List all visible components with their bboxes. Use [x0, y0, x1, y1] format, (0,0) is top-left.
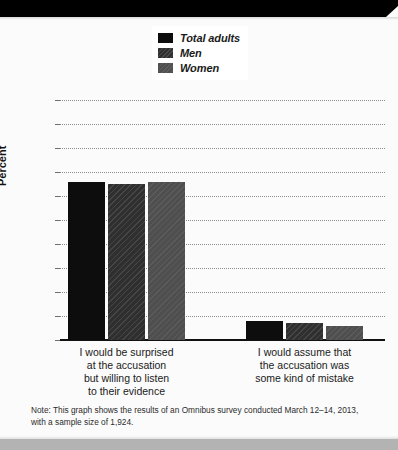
legend-label-women: Women [180, 62, 219, 74]
x-axis-category-label-1: I would be surprisedat the accusationbut… [47, 346, 207, 398]
gridline-80 [60, 148, 385, 150]
bar-total-adults-group-2 [246, 321, 283, 340]
gridline-100 [60, 100, 385, 102]
plot-area: 1009080706050403020100 [60, 100, 385, 340]
x-axis-category-label-1-line-4: to their evidence [47, 385, 207, 398]
legend-swatch-women [158, 63, 173, 73]
y-tick-mark-30 [55, 268, 60, 269]
y-tick-mark-60 [55, 196, 60, 197]
chart-footnote: Note: This graph shows the results of an… [31, 404, 371, 428]
y-tick-mark-10 [55, 316, 60, 317]
chart-figure: Total adults Men Women Percent 100908070… [0, 0, 398, 450]
y-tick-mark-70 [55, 172, 60, 173]
chart-legend: Total adults Men Women [152, 26, 248, 80]
legend-item-total-adults: Total adults [158, 30, 240, 45]
bar-women-group-2 [326, 326, 363, 340]
y-tick-mark-100 [55, 100, 60, 101]
x-axis-category-label-1-line-1: I would be surprised [47, 346, 207, 359]
x-axis-category-label-2: I would assume thatthe accusation wassom… [225, 346, 385, 385]
y-tick-mark-90 [55, 124, 60, 125]
y-tick-mark-80 [55, 148, 60, 149]
gridline-90 [60, 124, 385, 126]
legend-label-total-adults: Total adults [180, 32, 240, 44]
legend-item-men: Men [158, 45, 240, 60]
x-axis-category-label-2-line-3: some kind of mistake [225, 372, 385, 385]
y-axis-title: Percent [0, 146, 8, 186]
x-axis-category-label-1-line-3: but willing to listen [47, 372, 207, 385]
top-banner-shadow [0, 17, 398, 20]
bar-men-group-2 [286, 323, 323, 340]
gridline-70 [60, 172, 385, 174]
legend-label-men: Men [180, 47, 202, 59]
x-axis-category-label-2-line-1: I would assume that [225, 346, 385, 359]
y-tick-mark-50 [55, 220, 60, 221]
legend-item-women: Women [158, 60, 240, 75]
y-tick-mark-40 [55, 244, 60, 245]
x-axis-category-label-1-line-2: at the accusation [47, 359, 207, 372]
y-tick-mark-0 [55, 340, 60, 341]
x-axis-category-label-2-line-2: the accusation was [225, 359, 385, 372]
bar-total-adults-group-1 [68, 182, 105, 340]
bar-men-group-1 [108, 184, 145, 340]
bottom-bar-decoration [0, 439, 398, 450]
legend-swatch-men [158, 48, 173, 58]
legend-swatch-total-adults [158, 33, 173, 43]
y-tick-mark-20 [55, 292, 60, 293]
bar-women-group-1 [148, 182, 185, 340]
top-banner-decoration [0, 0, 398, 17]
